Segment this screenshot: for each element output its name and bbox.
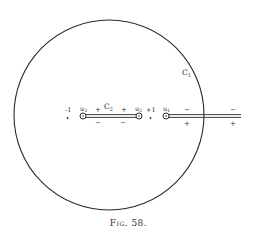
minus-one-point xyxy=(67,117,69,119)
sign-slit-upper-left: − xyxy=(184,106,190,114)
sign-inner-lower-right: − xyxy=(120,119,126,127)
c2-label: C2 xyxy=(104,102,113,112)
inner-cut xyxy=(80,113,142,119)
contour-diagram: -1 +1 u3 u2 u1 C2 C1 + + − − − − + + xyxy=(0,0,257,237)
figure-caption: Fig. 58. xyxy=(0,218,257,228)
c1-label: C1 xyxy=(182,68,191,78)
sign-slit-lower-left: + xyxy=(184,120,190,128)
sign-inner-lower-left: − xyxy=(95,119,101,127)
sign-inner-upper-left: + xyxy=(95,106,101,114)
u2-label: u2 xyxy=(135,105,142,113)
plus-one-point xyxy=(150,117,152,119)
u1-label: u1 xyxy=(163,105,170,113)
minus-one-label: -1 xyxy=(65,106,71,114)
u3-label: u3 xyxy=(80,105,87,113)
sign-inner-upper-right: + xyxy=(121,106,127,114)
plus-one-label: +1 xyxy=(146,106,156,114)
sign-slit-upper-right: − xyxy=(230,106,236,114)
sign-slit-lower-right: + xyxy=(230,120,236,128)
